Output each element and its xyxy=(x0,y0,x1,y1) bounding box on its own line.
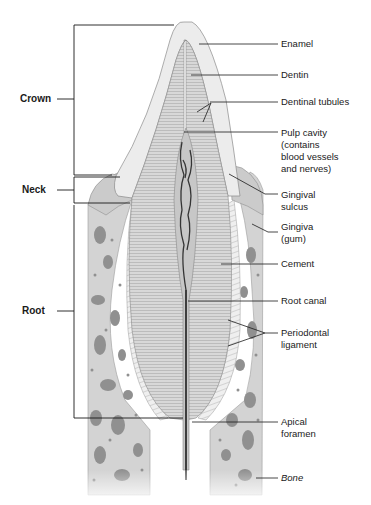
label-enamel: Enamel xyxy=(281,38,313,50)
label-gingiva: Gingiva (gum) xyxy=(281,221,313,245)
label-dentin: Dentin xyxy=(281,69,308,81)
label-dentinal-tubules: Dentinal tubules xyxy=(281,96,349,108)
label-root-canal: Root canal xyxy=(281,295,326,307)
label-apical-foramen: Apical foramen xyxy=(281,416,316,440)
label-cement: Cement xyxy=(281,258,314,270)
label-crown: Crown xyxy=(20,93,51,105)
label-gingival-sulcus: Gingival sulcus xyxy=(281,189,315,213)
label-root: Root xyxy=(22,305,45,317)
label-periodontal-ligament: Periodontal ligament xyxy=(281,327,329,351)
label-pulp-cavity: Pulp cavity (contains blood vessels and … xyxy=(281,127,339,175)
label-bone: Bone xyxy=(281,472,303,484)
label-neck: Neck xyxy=(22,184,46,196)
